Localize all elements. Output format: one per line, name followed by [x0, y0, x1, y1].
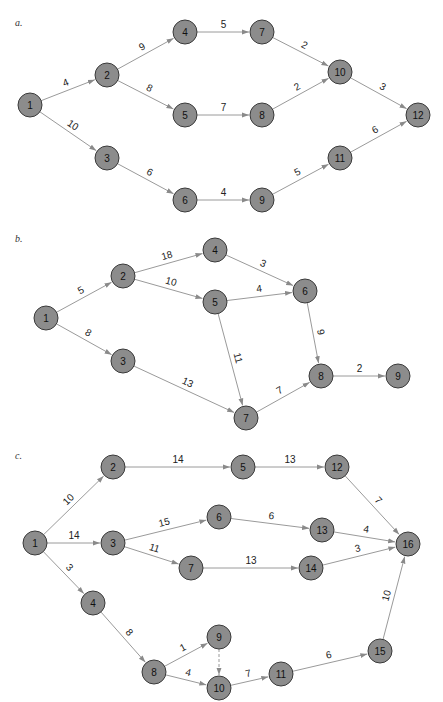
edge-1-to-2	[44, 476, 104, 535]
edge-weight-label: 6	[370, 123, 381, 136]
edge-weight-label: 1	[178, 641, 188, 654]
edge-weight-label: 8	[145, 82, 155, 95]
node-10: 10	[328, 60, 352, 84]
panel-label: a.	[15, 17, 23, 28]
node-label: 12	[331, 462, 343, 473]
node-10: 10	[207, 676, 231, 700]
edge-weight-label: 3	[258, 257, 268, 269]
edge-weight-label: 6	[268, 510, 275, 522]
edge-weight-label: 5	[221, 19, 227, 30]
edge-weight-label: 3	[64, 562, 76, 574]
node-16: 16	[396, 532, 420, 556]
node-label: 4	[212, 245, 218, 256]
edge-weight-label: 5	[292, 166, 302, 179]
edges: 41098657422536	[40, 19, 407, 201]
node-12: 12	[325, 455, 349, 479]
node-label: 8	[151, 667, 157, 678]
node-6: 6	[173, 188, 197, 212]
edge-7-to-8	[256, 382, 309, 412]
edge-weight-label: 11	[232, 351, 245, 364]
edge-weight-label: 10	[164, 274, 178, 288]
edge-weight-label: 13	[245, 555, 257, 566]
edge-weight-label: 4	[363, 523, 371, 535]
edge-8-to-9	[165, 643, 208, 666]
edge-3-to-6	[118, 164, 174, 194]
edge-1-to-3	[40, 112, 96, 151]
node-8: 8	[309, 364, 333, 388]
node-8: 8	[142, 660, 166, 684]
node-3: 3	[95, 146, 119, 170]
panel-label: b.	[15, 233, 23, 244]
node-label: 16	[402, 539, 414, 550]
node-12: 12	[406, 103, 430, 127]
edge-weight-label: 14	[68, 530, 80, 541]
node-label: 7	[243, 413, 249, 424]
node-label: 6	[302, 286, 308, 297]
node-label: 5	[240, 462, 246, 473]
node-4: 4	[81, 591, 105, 615]
nodes: 123456789101112	[18, 20, 430, 212]
diagram-b: b.581810133411972123456789	[15, 233, 410, 430]
node-5: 5	[173, 103, 197, 127]
edge-2-to-5	[118, 80, 174, 109]
node-6: 6	[293, 279, 317, 303]
edge-10-to-12	[351, 78, 407, 109]
node-label: 10	[213, 683, 225, 694]
edge-weight-label: 13	[284, 454, 296, 465]
edge-weight-label: 14	[172, 454, 184, 465]
node-label: 1	[27, 100, 33, 111]
node-label: 2	[110, 462, 116, 473]
edge-weight-label: 13	[180, 375, 195, 390]
node-label: 1	[43, 313, 49, 324]
edge-weight-label: 7	[221, 102, 227, 113]
edge-weight-label: 9	[315, 328, 327, 336]
edge-weight-label: 6	[145, 166, 155, 179]
node-label: 6	[216, 512, 222, 523]
diagram-c: c.10143141511813613147674310123456789101…	[15, 450, 420, 700]
node-label: 11	[276, 669, 287, 680]
node-label: 3	[120, 356, 126, 367]
edge-12-to-16	[345, 476, 399, 535]
node-5: 5	[203, 290, 227, 314]
node-7: 7	[250, 20, 274, 44]
node-2: 2	[111, 264, 135, 288]
edge-weight-label: 9	[137, 40, 148, 53]
node-9: 9	[207, 625, 231, 649]
node-label: 9	[395, 371, 401, 382]
edge-weight-label: 2	[292, 80, 303, 93]
edge-weight-label: 6	[325, 649, 333, 661]
node-8: 8	[250, 103, 274, 127]
node-11: 11	[269, 662, 293, 686]
node-label: 5	[212, 297, 218, 308]
node-2: 2	[101, 455, 125, 479]
edge-weight-label: 4	[61, 76, 71, 88]
node-label: 10	[334, 67, 346, 78]
node-label: 12	[412, 110, 424, 121]
node-7: 7	[179, 556, 203, 580]
edge-4-to-8	[101, 612, 145, 662]
diagrams-root: a.41098657422536123456789101112b.5818101…	[15, 17, 430, 700]
edge-4-to-6	[226, 255, 293, 286]
node-1: 1	[34, 306, 58, 330]
edge-weight-label: 2	[300, 39, 310, 52]
node-3: 3	[101, 531, 125, 555]
edge-weight-label: 7	[244, 667, 252, 679]
node-15: 15	[368, 639, 392, 663]
edge-weight-label: 11	[148, 541, 162, 555]
node-label: 14	[305, 563, 317, 574]
edges: 10143141511813613147674310	[43, 454, 404, 686]
node-label: 8	[259, 110, 265, 121]
node-9: 9	[250, 188, 274, 212]
edge-weight-label: 8	[83, 326, 94, 339]
edge-weight-label: 5	[76, 284, 87, 297]
network-diagrams-canvas: a.41098657422536123456789101112b.5818101…	[0, 0, 443, 702]
edge-weight-label: 7	[372, 494, 384, 506]
edge-2-to-4	[118, 38, 174, 69]
panel-label: c.	[15, 450, 22, 461]
node-label: 9	[216, 632, 222, 643]
node-label: 8	[318, 371, 324, 382]
node-label: 11	[335, 153, 346, 164]
node-label: 6	[182, 195, 188, 206]
node-13: 13	[310, 518, 334, 542]
node-label: 5	[182, 110, 188, 121]
